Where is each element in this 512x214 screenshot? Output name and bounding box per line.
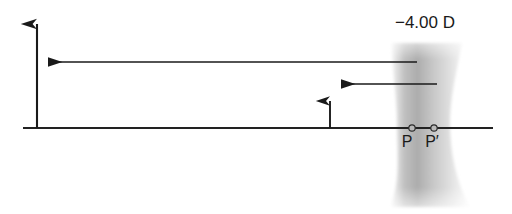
principal-point-p-label: P — [402, 133, 413, 150]
lens-element — [390, 43, 470, 207]
optical-diagram-figure: −4.00 D P P′ — [0, 0, 512, 214]
principal-point-p-marker — [409, 125, 415, 131]
principal-point-p-prime-marker — [431, 125, 437, 131]
diagram-canvas: −4.00 D P P′ — [0, 0, 512, 214]
lens-power-label: −4.00 D — [395, 13, 455, 32]
lens-edge-shading — [390, 43, 470, 207]
principal-point-p-prime-label: P′ — [425, 133, 439, 150]
